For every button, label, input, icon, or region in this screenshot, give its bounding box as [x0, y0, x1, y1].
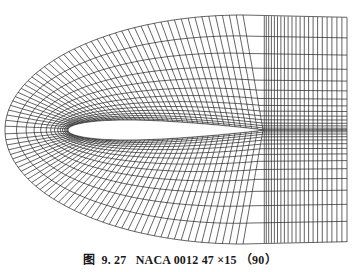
- caption-title: NACA 0012 47 ×15 （90）: [136, 253, 277, 267]
- caption-prefix: 图: [83, 253, 95, 267]
- figure-caption: 图9. 27 NACA 0012 47 ×15 （90）: [0, 250, 360, 268]
- caption-number: 9. 27: [101, 253, 126, 267]
- c-grid-mesh-diagram: [0, 0, 360, 248]
